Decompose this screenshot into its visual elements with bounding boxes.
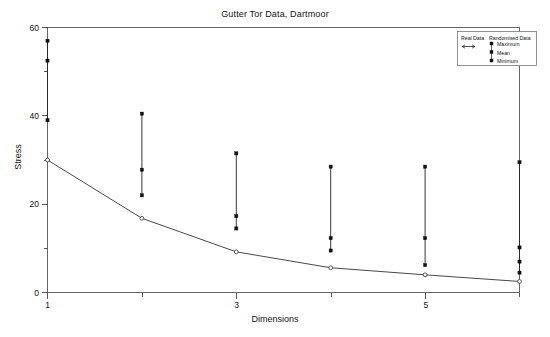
x-tick-label-1: 1 [45,300,50,310]
randomised-data-series [46,39,521,274]
legend-header-real-data: Real Data [461,35,484,41]
legend-header-randomised-data: Randomised Data [489,35,531,41]
range-bar-group [235,152,238,230]
legend-marker-minimum [490,59,493,62]
range-bar-group [329,165,332,252]
real-data-marker [518,280,522,284]
marker-maximum [424,165,427,168]
x-tick-label-3: 3 [234,300,239,310]
marker-maximum [329,165,332,168]
marker-minimum [329,249,332,252]
y-tick-label-40: 40 [30,111,40,121]
range-bar-group [46,39,49,122]
legend-marker-mean [490,51,493,54]
marker-mean [329,237,332,240]
marker-minimum [424,264,427,267]
real-data-marker [46,158,50,162]
marker-mean [235,214,238,217]
marker-mean [424,237,427,240]
marker-maximum [46,39,49,42]
range-bar-group [518,161,521,275]
marker-mean [518,246,521,249]
real-data-marker [423,273,427,277]
range-bar-group [424,165,427,267]
plot-frame [48,28,520,293]
marker-extra-point [518,260,521,263]
real-data-line [48,160,520,281]
legend-label-maximum: Maximum [497,41,519,47]
y-axis: 60 40 20 0 [30,23,48,298]
x-axis: 1 3 5 [45,293,519,311]
range-bar-group [140,112,143,197]
y-tick-label-0: 0 [34,288,39,298]
plot-area: 60 40 20 0 1 3 5 Real Data Randomised Da… [0,0,550,337]
marker-minimum [140,194,143,197]
legend-label-minimum: Minimum [497,58,518,64]
x-tick-label-5: 5 [424,300,429,310]
real-data-series [46,158,522,283]
chart-container: Gutter Tor Data, Dartmoor 60 40 20 0 [0,0,550,337]
marker-mean [140,168,143,171]
marker-maximum [518,161,521,164]
y-axis-label: Stress [13,127,23,187]
y-tick-label-20: 20 [30,199,40,209]
real-data-marker [329,266,333,270]
marker-minimum [235,227,238,230]
real-data-marker [234,250,238,254]
legend[interactable]: Real Data Randomised Data Maximum Mean M… [458,32,537,66]
legend-label-mean: Mean [497,50,510,56]
marker-maximum [235,152,238,155]
real-data-marker [140,216,144,220]
marker-mean [46,59,49,62]
marker-maximum [140,112,143,115]
x-axis-label: Dimensions [0,314,550,324]
marker-minimum [46,119,49,122]
y-tick-label-60: 60 [30,23,40,33]
marker-minimum [518,271,521,274]
legend-marker-maximum [490,42,493,45]
